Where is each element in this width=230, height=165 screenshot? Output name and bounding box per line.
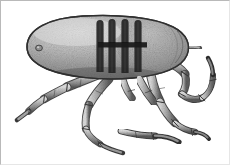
body-idiosoma xyxy=(27,14,201,99)
eye-spot xyxy=(36,45,43,51)
illustration-frame: tick xyxy=(0,0,230,165)
leg-front-left xyxy=(123,80,135,98)
foreleg-hook-lower xyxy=(121,131,179,142)
leg-mid-right xyxy=(151,76,209,139)
tick-illustration xyxy=(1,1,229,164)
leg-mid-left xyxy=(82,79,123,153)
